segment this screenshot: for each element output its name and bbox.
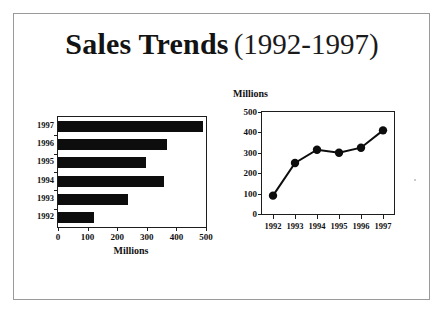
- line-x-tick: [295, 214, 296, 219]
- bar-1996: [58, 139, 167, 150]
- line-x-tick: [339, 214, 340, 219]
- bar-1994: [58, 176, 164, 187]
- bar-y-tick: [54, 190, 58, 191]
- bar-category-label: 1993: [37, 192, 54, 204]
- line-y-tick-label: 500: [244, 107, 258, 117]
- bar-category-label: 1996: [37, 137, 54, 149]
- line-y-tick: [258, 214, 262, 215]
- title-date-range: (1992-1997): [234, 28, 379, 60]
- bar-category-label: 1994: [37, 174, 54, 186]
- bar-row: 1993: [58, 194, 206, 205]
- line-x-tick: [273, 214, 274, 219]
- line-x-tick-label: 1994: [309, 221, 326, 231]
- bar-x-tick: [117, 227, 118, 231]
- line-chart-series: [262, 112, 394, 214]
- line-marker-1997: [379, 126, 387, 134]
- scan-artifact-speck: [414, 179, 416, 181]
- bar-1993: [58, 194, 128, 205]
- bar-row: 1992: [58, 212, 206, 223]
- line-y-tick: [258, 132, 262, 133]
- line-y-tick-label: 300: [244, 148, 258, 158]
- line-x-tick-label: 1996: [353, 221, 370, 231]
- bar-x-tick-label: 200: [110, 232, 124, 242]
- line-x-tick: [383, 214, 384, 219]
- line-x-tick: [361, 214, 362, 219]
- bar-1997: [58, 121, 203, 132]
- line-y-tick: [258, 112, 262, 113]
- bar-x-tick: [88, 227, 89, 231]
- bar-x-tick-label: 100: [81, 232, 95, 242]
- line-y-tick-label: 0: [253, 209, 258, 219]
- bar-x-tick: [176, 227, 177, 231]
- line-marker-1992: [269, 191, 277, 199]
- line-y-tick-label: 100: [244, 189, 258, 199]
- line-marker-1993: [291, 159, 299, 167]
- bar-row: 1995: [58, 157, 206, 168]
- bar-1995: [58, 157, 146, 168]
- line-y-tick: [258, 194, 262, 195]
- line-x-tick-label: 1997: [375, 221, 392, 231]
- line-chart: Millions 0100200300400500199219931994199…: [231, 88, 421, 248]
- line-x-tick-label: 1995: [331, 221, 348, 231]
- bar-chart-plot-area: 1997199619951994199319920100200300400500: [57, 116, 207, 228]
- line-marker-1996: [357, 144, 365, 152]
- bar-x-tick-label: 0: [56, 232, 61, 242]
- bar-y-tick: [54, 154, 58, 155]
- slide-title: Sales Trends(1992-1997): [0, 27, 444, 61]
- bar-x-tick-label: 400: [170, 232, 184, 242]
- line-marker-1995: [335, 149, 343, 157]
- line-path: [273, 130, 383, 195]
- bar-x-tick-label: 500: [199, 232, 213, 242]
- line-chart-plot-area: 0100200300400500199219931994199519961997: [261, 111, 395, 215]
- line-x-tick-label: 1993: [287, 221, 304, 231]
- bar-row: 1994: [58, 176, 206, 187]
- bar-x-tick: [206, 227, 207, 231]
- bar-row: 1997: [58, 121, 206, 132]
- line-x-tick-label: 1992: [265, 221, 282, 231]
- line-y-tick: [258, 153, 262, 154]
- presentation-slide: Sales Trends(1992-1997) 1997199619951994…: [0, 0, 444, 314]
- line-y-tick-label: 200: [244, 168, 258, 178]
- line-y-tick-label: 400: [244, 127, 258, 137]
- bar-y-tick: [54, 135, 58, 136]
- bar-row: 1996: [58, 139, 206, 150]
- bar-category-label: 1995: [37, 155, 54, 167]
- bar-x-tick: [147, 227, 148, 231]
- bar-category-label: 1997: [37, 119, 54, 131]
- bar-y-tick: [54, 172, 58, 173]
- line-x-tick: [317, 214, 318, 219]
- title-main-text: Sales Trends: [65, 27, 228, 60]
- bar-y-tick: [54, 209, 58, 210]
- bar-category-label: 1992: [37, 210, 54, 222]
- bar-1992: [58, 212, 94, 223]
- line-chart-y-axis-title: Millions: [233, 88, 268, 99]
- line-marker-1994: [313, 146, 321, 154]
- bar-x-tick-label: 300: [140, 232, 154, 242]
- bar-chart-x-axis-title: Millions: [57, 245, 205, 256]
- bar-chart: 1997199619951994199319920100200300400500…: [28, 112, 218, 264]
- bar-x-tick: [58, 227, 59, 231]
- line-y-tick: [258, 173, 262, 174]
